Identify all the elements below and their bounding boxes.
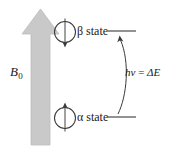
beta-state-label: β state bbox=[77, 25, 108, 37]
field-symbol: B bbox=[10, 64, 18, 79]
frequency-symbol: ν bbox=[131, 66, 136, 78]
field-strength-label: B0 bbox=[10, 65, 23, 81]
field-subscript: 0 bbox=[18, 71, 23, 81]
delta-energy-symbol: ΔE bbox=[147, 66, 160, 78]
spin-state-energy-diagram: B0 β state α state hν = ΔE bbox=[0, 0, 182, 153]
equals-sign: = bbox=[138, 66, 144, 78]
transition-energy-label: hν = ΔE bbox=[125, 67, 160, 78]
magnetic-field-arrow-icon bbox=[22, 9, 59, 145]
alpha-state-label: α state bbox=[77, 111, 108, 123]
alpha-spin-icon bbox=[55, 103, 76, 132]
